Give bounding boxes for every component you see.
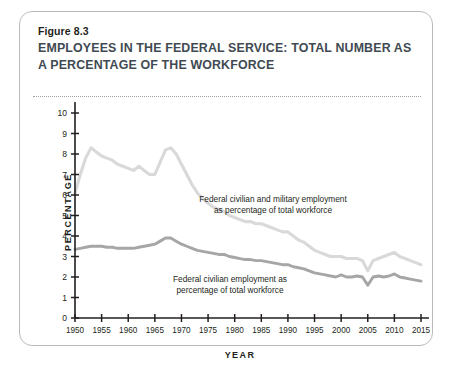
series-annotation-civilian: Federal civilian employment as percentag… <box>140 274 320 295</box>
x-tick-label: 1980 <box>226 326 245 335</box>
x-tick-label: 1995 <box>305 326 324 335</box>
y-tick-label: 2 <box>62 272 67 282</box>
x-tick-label: 2010 <box>385 326 404 335</box>
x-tick-label: 1965 <box>146 326 165 335</box>
series-annotation-total: Federal civilian and military employment… <box>178 194 368 215</box>
x-tick-label: 1975 <box>199 326 218 335</box>
x-axis-label: YEAR <box>20 350 454 360</box>
x-tick-label: 1955 <box>93 326 112 335</box>
chart-canvas: 0123456789101950195519601965197019751980… <box>20 12 434 347</box>
x-tick-label: 1985 <box>252 326 271 335</box>
y-tick-label: 0 <box>62 313 67 323</box>
y-axis-label: PERCENTAGE <box>63 157 73 267</box>
figure-card: Figure 8.3 EMPLOYEES IN THE FEDERAL SERV… <box>19 11 433 346</box>
y-tick-label: 10 <box>57 108 67 118</box>
x-tick-label: 1990 <box>279 326 298 335</box>
y-tick-label: 9 <box>62 129 67 139</box>
x-tick-label: 2015 <box>412 326 431 335</box>
x-tick-label: 1950 <box>66 326 85 335</box>
x-tick-label: 1970 <box>172 326 191 335</box>
x-tick-label: 2005 <box>359 326 378 335</box>
y-tick-label: 1 <box>62 293 67 303</box>
x-tick-label: 2000 <box>332 326 351 335</box>
x-tick-label: 1960 <box>119 326 138 335</box>
